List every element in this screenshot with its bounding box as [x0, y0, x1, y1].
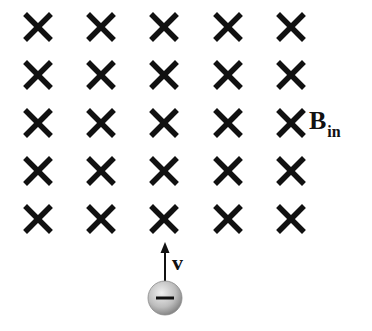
cross-icon	[217, 160, 239, 182]
cross-icon	[280, 64, 302, 86]
cross-icon	[280, 16, 302, 38]
cross-icon	[217, 64, 239, 86]
cross-icon	[217, 112, 239, 134]
cross-icon	[217, 208, 239, 230]
cross-icon	[153, 16, 175, 38]
cross-icon	[90, 208, 112, 230]
cross-icon	[153, 160, 175, 182]
cross-icon	[280, 112, 302, 134]
magnetic-field-diagram	[0, 0, 372, 331]
magnetic-field-label: Bin	[309, 108, 341, 134]
cross-icon	[90, 112, 112, 134]
cross-icon	[27, 112, 49, 134]
field-label-subscript: in	[327, 123, 340, 140]
cross-icon	[27, 160, 49, 182]
cross-icon	[27, 16, 49, 38]
velocity-arrow	[161, 242, 170, 282]
cross-icon	[90, 160, 112, 182]
cross-icon	[153, 208, 175, 230]
velocity-label: v	[172, 252, 183, 274]
cross-icon	[280, 160, 302, 182]
cross-icon	[280, 208, 302, 230]
cross-icon	[217, 16, 239, 38]
cross-icon	[27, 208, 49, 230]
cross-icon	[27, 64, 49, 86]
magnetic-field-crosses	[27, 16, 302, 230]
arrow-head-icon	[161, 242, 170, 253]
field-label-main: B	[309, 106, 326, 135]
cross-icon	[90, 64, 112, 86]
cross-icon	[90, 16, 112, 38]
negative-charge-particle	[148, 281, 182, 315]
cross-icon	[153, 64, 175, 86]
cross-icon	[153, 112, 175, 134]
